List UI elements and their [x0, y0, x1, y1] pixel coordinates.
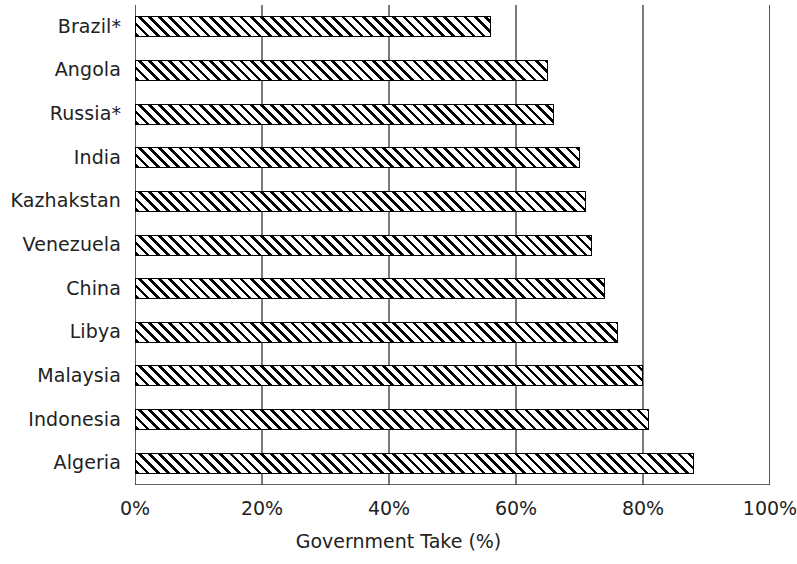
bar — [135, 147, 580, 168]
bar — [135, 453, 694, 474]
bar — [135, 278, 605, 299]
x-tick-label: 20% — [241, 497, 283, 519]
x-tick-label: 100% — [743, 497, 797, 519]
x-axis-title: Government Take (%) — [0, 530, 797, 552]
bar — [135, 16, 491, 37]
bar — [135, 322, 618, 343]
bar — [135, 191, 586, 212]
bar — [135, 60, 548, 81]
x-tick-label: 40% — [368, 497, 410, 519]
bar — [135, 235, 592, 256]
category-label: Kazhakstan — [0, 189, 121, 211]
category-label: Malaysia — [0, 364, 121, 386]
x-tick-label: 0% — [120, 497, 150, 519]
category-label: Algeria — [0, 451, 121, 473]
category-label: Brazil* — [0, 15, 121, 37]
category-label: Russia* — [0, 102, 121, 124]
bar — [135, 365, 643, 386]
category-label: India — [0, 146, 121, 168]
x-tick-label: 60% — [495, 497, 537, 519]
category-label: Venezuela — [0, 233, 121, 255]
bar — [135, 104, 554, 125]
plot-area — [135, 5, 770, 485]
category-label: Indonesia — [0, 408, 121, 430]
category-label: China — [0, 277, 121, 299]
category-label: Libya — [0, 320, 121, 342]
bar — [135, 409, 649, 430]
x-tick-label: 80% — [622, 497, 664, 519]
category-label: Angola — [0, 58, 121, 80]
government-take-bar-chart: Brazil*AngolaRussia*IndiaKazhakstanVenez… — [0, 0, 797, 564]
